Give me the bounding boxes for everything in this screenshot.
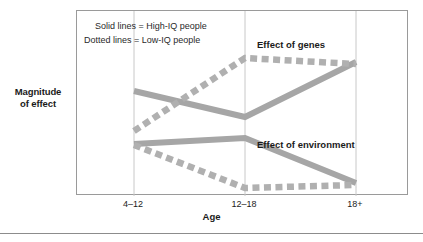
legend-item-solid: Solid lines = High-IQ people xyxy=(95,19,207,33)
x-tick-label-12-18: 12–18 xyxy=(214,199,274,209)
annotation-effect-of-genes: Effect of genes xyxy=(257,39,325,50)
x-tick-label-18-plus: 18+ xyxy=(325,199,385,209)
x-axis-label: Age xyxy=(0,211,423,222)
chart-legend: Solid lines = High-IQ people Dotted line… xyxy=(95,19,207,47)
y-axis-label-line2: of effect xyxy=(20,98,56,109)
x-tick-label-4-12: 4–12 xyxy=(103,199,163,209)
legend-item-dotted: Dotted lines = Low-IQ people xyxy=(84,33,207,47)
figure-container: Magnitude of effect Solid lines = High-I… xyxy=(0,0,423,242)
annotation-effect-of-environment: Effect of environment xyxy=(257,139,355,150)
y-axis-label-line1: Magnitude xyxy=(15,86,62,97)
plot-area: Solid lines = High-IQ people Dotted line… xyxy=(76,10,408,195)
y-axis-label: Magnitude of effect xyxy=(2,86,74,109)
bottom-divider xyxy=(0,233,423,234)
